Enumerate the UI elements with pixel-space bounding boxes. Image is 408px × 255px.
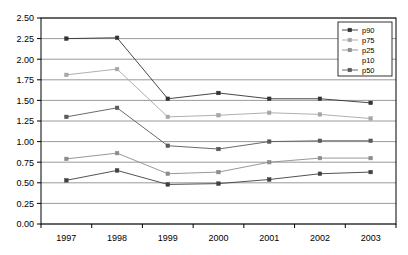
data-point-p50-1999 [166, 144, 170, 148]
data-point-p90-2000 [217, 91, 221, 95]
x-axis-label-2003: 2003 [361, 233, 381, 243]
legend-label-p10: p10 [362, 56, 375, 65]
y-axis-label-0.50: 0.50 [16, 178, 34, 188]
data-point-p50-2002 [318, 139, 322, 143]
y-axis-label-2.25: 2.25 [16, 34, 34, 44]
x-axis-label-1997: 1997 [56, 233, 76, 243]
data-point-p50-1997 [65, 115, 69, 119]
data-point-p50-2003 [369, 139, 373, 143]
data-point-p10-2001 [267, 178, 271, 182]
data-point-p75-1998 [115, 67, 119, 71]
legend-label-p25: p25 [362, 46, 375, 55]
data-point-p25-2002 [318, 156, 322, 160]
data-point-p10-1997 [65, 179, 69, 183]
legend-label-p50: p50 [362, 66, 375, 75]
data-point-p75-2002 [318, 113, 322, 117]
data-point-p90-2003 [369, 101, 373, 105]
y-axis-label-1.00: 1.00 [16, 137, 34, 147]
x-axis-label-2000: 2000 [208, 233, 228, 243]
data-point-p90-1997 [65, 37, 69, 41]
data-point-p75-1997 [65, 73, 69, 77]
data-point-p10-2002 [318, 172, 322, 176]
x-axis-label-1999: 1999 [158, 233, 178, 243]
y-axis-tick-labels: 0.000.250.500.751.001.251.501.752.002.25… [16, 13, 34, 229]
y-axis-label-2.50: 2.50 [16, 13, 34, 23]
data-point-p75-2003 [369, 117, 373, 121]
data-point-p25-2001 [267, 160, 271, 164]
y-axis-label-0.00: 0.00 [16, 219, 34, 229]
chart-container: 0.000.250.500.751.001.251.501.752.002.25… [0, 0, 408, 255]
data-point-p90-2001 [267, 97, 271, 101]
data-point-p75-2000 [217, 113, 221, 117]
data-point-p25-1999 [166, 172, 170, 176]
data-point-p50-2000 [217, 147, 221, 151]
x-axis-tick-marks [41, 224, 396, 228]
chart-legend: p90p75p25p10p50 [338, 22, 392, 76]
line-chart: 0.000.250.500.751.001.251.501.752.002.25… [0, 0, 408, 255]
data-point-p90-1998 [115, 36, 119, 40]
legend-label-p75: p75 [362, 36, 375, 45]
y-axis-label-1.75: 1.75 [16, 75, 34, 85]
y-axis-tick-marks [37, 18, 41, 224]
y-axis-label-1.25: 1.25 [16, 116, 34, 126]
data-point-p10-2000 [217, 182, 221, 186]
x-axis-tick-labels: 1997199819992000200120022003 [56, 233, 380, 243]
data-point-p10-2003 [369, 170, 373, 174]
data-point-p75-2001 [267, 111, 271, 115]
legend-item-p10[interactable]: p10 [362, 56, 375, 65]
data-point-p25-2003 [369, 156, 373, 160]
data-point-p25-1997 [65, 157, 69, 161]
data-point-p25-2000 [217, 170, 221, 174]
data-point-p90-1999 [166, 97, 170, 101]
data-point-p10-1998 [115, 169, 119, 173]
data-point-p90-2002 [318, 97, 322, 101]
legend-label-p90: p90 [362, 26, 375, 35]
y-axis-label-1.50: 1.50 [16, 96, 34, 106]
data-point-p50-1998 [115, 106, 119, 110]
y-axis-label-2.00: 2.00 [16, 55, 34, 65]
data-point-p75-1999 [166, 115, 170, 119]
data-point-p50-2001 [267, 140, 271, 144]
y-axis-label-0.25: 0.25 [16, 199, 34, 209]
x-axis-label-1998: 1998 [107, 233, 127, 243]
x-axis-label-2002: 2002 [310, 233, 330, 243]
y-axis-label-0.75: 0.75 [16, 158, 34, 168]
data-point-p25-1998 [115, 151, 119, 155]
data-point-p10-1999 [166, 183, 170, 187]
x-axis-label-2001: 2001 [259, 233, 279, 243]
